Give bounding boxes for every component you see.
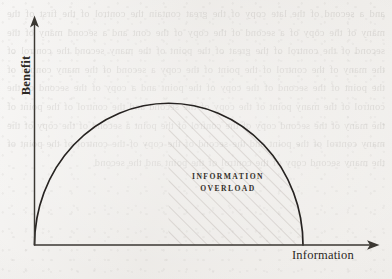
figure-canvas: and a second of the late copy of the gre… [0,0,392,279]
information-overload-region [169,103,304,245]
y-axis-label: Benefit [19,46,34,106]
benefit-information-chart [0,0,392,279]
x-axis-label: Information [292,248,354,263]
